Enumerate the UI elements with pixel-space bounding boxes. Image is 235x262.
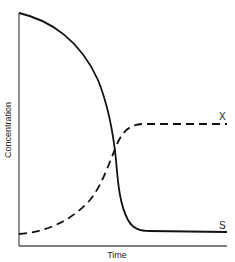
chart-svg: X S Time Concentration [0, 0, 235, 262]
y-axis-title: Concentration [3, 102, 13, 158]
series-s-label: S [219, 220, 226, 231]
x-axis-title: Time [107, 250, 127, 260]
series-s-line [19, 13, 227, 232]
series-x-line [19, 124, 227, 234]
series-x-label: X [219, 111, 226, 122]
chart: X S Time Concentration [0, 0, 235, 262]
